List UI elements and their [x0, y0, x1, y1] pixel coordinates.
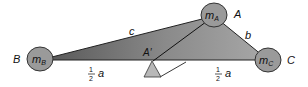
half-a-right: 1 2 a: [215, 66, 231, 82]
fulcrum-icon: [144, 61, 161, 77]
svg-text:1: 1: [89, 66, 93, 73]
svg-text:2: 2: [216, 75, 220, 82]
vertex-b-label: B: [13, 53, 20, 65]
side-b-label: b: [245, 29, 251, 41]
svg-text:2: 2: [89, 75, 93, 82]
mass-triangle-diagram: mB mA mC B A C c b A′ 1 2 a 1 2 a: [0, 0, 308, 87]
vertex-a-label: A: [233, 8, 241, 20]
triangle-abc: [40, 16, 268, 60]
side-c-label: c: [129, 25, 135, 37]
mass-b: mB: [27, 47, 53, 71]
mass-a: mA: [201, 3, 227, 27]
half-a-left: 1 2 a: [88, 66, 104, 82]
svg-text:a: a: [225, 67, 231, 79]
mass-c: mC: [255, 48, 281, 72]
vertex-c-label: C: [287, 54, 295, 66]
lever-outline: [160, 62, 186, 77]
svg-text:a: a: [98, 67, 104, 79]
svg-text:1: 1: [216, 66, 220, 73]
midpoint-label: A′: [142, 47, 153, 58]
